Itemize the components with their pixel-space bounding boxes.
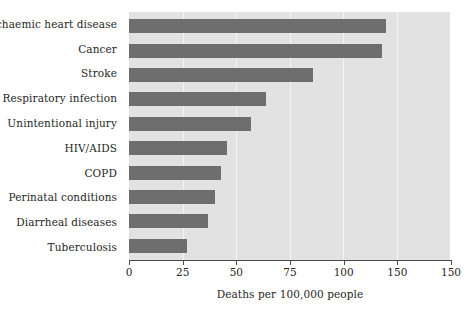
category-label: Tuberculosis [0,235,123,260]
bar-row [129,209,450,233]
tick-mark [290,260,291,265]
bar-row [129,63,450,87]
category-label: Unintentional injury [0,111,123,136]
tick-label: 100 [334,266,354,278]
bar [129,19,386,33]
category-axis: Ischaemic heart diseaseCancerStrokeRespi… [0,12,123,260]
value-axis-title: Deaths per 100,000 people [129,288,451,300]
bar [129,190,215,204]
category-label: Ischaemic heart disease [0,12,123,37]
category-label: Cancer [0,37,123,62]
tick-label: 50 [230,266,243,278]
tick-label: 150 [387,266,407,278]
bar [129,239,187,253]
tick-label: 25 [176,266,189,278]
tick-mark [183,260,184,265]
tick-label: 75 [283,266,296,278]
category-label: Perinatal conditions [0,186,123,211]
category-label: HIV/AIDS [0,136,123,161]
bar-row [129,160,450,184]
tick-mark [236,260,237,265]
bar-row [129,87,450,111]
bar [129,117,251,131]
tick-mark [397,260,398,265]
bar [129,44,382,58]
category-label: Respiratory infection [0,86,123,111]
bar [129,141,227,155]
bar-row [129,185,450,209]
value-axis-ticks: 0255075100150150 [129,260,451,284]
bar [129,68,313,82]
category-label: Stroke [0,62,123,87]
plot-area [129,12,450,260]
category-label: Diarrheal diseases [0,210,123,235]
bar-row [129,112,450,136]
tick-mark [129,260,130,265]
bar-chart: Ischaemic heart diseaseCancerStrokeRespi… [0,0,470,313]
bar-series [129,12,450,260]
bar-row [129,14,450,38]
tick-label: 150 [441,266,461,278]
tick-label: 0 [126,266,133,278]
bar [129,92,266,106]
tick-mark [344,260,345,265]
bar [129,214,208,228]
category-label: COPD [0,161,123,186]
tick-mark [451,260,452,265]
bar-row [129,38,450,62]
bar [129,166,221,180]
bar-row [129,234,450,258]
bar-row [129,136,450,160]
